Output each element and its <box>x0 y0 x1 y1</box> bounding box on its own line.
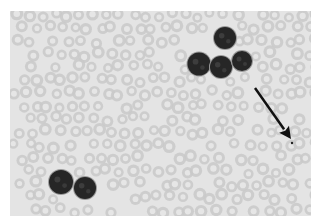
rbc <box>126 86 137 97</box>
rbc <box>178 90 189 101</box>
rbc <box>140 12 151 23</box>
rbc <box>270 58 283 71</box>
rbc <box>291 47 304 60</box>
rbc <box>186 22 198 34</box>
rbc <box>134 176 146 188</box>
rbc <box>225 126 236 137</box>
rbc <box>275 206 287 216</box>
rbc <box>168 34 180 46</box>
rbc <box>294 86 307 99</box>
rbc <box>258 141 268 151</box>
rbc <box>309 189 311 200</box>
rbc <box>251 180 262 191</box>
rbc <box>275 150 287 162</box>
rbc <box>131 149 144 162</box>
rbc <box>229 138 240 149</box>
rbc <box>245 139 257 151</box>
rbc <box>79 72 90 83</box>
rbc <box>195 205 208 216</box>
rbc <box>199 154 210 165</box>
rbc <box>293 113 305 125</box>
rbc <box>241 33 253 45</box>
rbc <box>159 71 171 83</box>
rbc <box>286 193 297 204</box>
rbc <box>182 205 194 216</box>
rbc <box>310 137 311 147</box>
rbc <box>147 206 158 216</box>
rbc <box>237 20 247 30</box>
rbc <box>300 153 311 164</box>
rbc <box>215 188 228 201</box>
lymphocyte <box>209 55 233 79</box>
rbc <box>226 181 237 192</box>
rbc <box>10 88 20 100</box>
rbc <box>99 163 111 175</box>
rbc <box>158 125 170 137</box>
rbc <box>157 207 169 216</box>
rbc <box>118 177 129 188</box>
rbc <box>161 22 172 33</box>
rbc <box>305 178 311 189</box>
rbc <box>172 101 185 114</box>
rbc <box>259 189 270 200</box>
rbc <box>89 86 100 97</box>
rbc <box>169 178 182 191</box>
rbc <box>217 11 228 19</box>
lymphocyte <box>73 176 97 200</box>
rbc <box>257 163 270 176</box>
rbc <box>39 123 52 136</box>
rbc <box>184 149 197 162</box>
rbc <box>142 34 154 46</box>
rbc <box>70 126 81 137</box>
rbc <box>148 72 159 83</box>
rbc <box>174 49 187 62</box>
rbc <box>52 89 62 99</box>
rbc <box>125 35 136 46</box>
rbc <box>38 11 49 22</box>
rbc <box>106 48 118 60</box>
rbc <box>40 205 52 216</box>
rbc <box>24 37 35 48</box>
rbc <box>304 204 311 215</box>
rbc <box>121 23 133 35</box>
rbc <box>248 205 260 216</box>
rbc <box>289 125 301 137</box>
rbc <box>20 86 33 99</box>
rbc <box>27 151 39 163</box>
rbc <box>57 22 68 33</box>
rbc <box>304 77 311 89</box>
rbc <box>114 167 124 177</box>
rbc <box>106 127 117 138</box>
rbc <box>25 61 37 73</box>
rbc <box>132 100 143 111</box>
rbc <box>161 98 173 110</box>
rbc <box>153 166 165 178</box>
rbc <box>213 152 225 164</box>
rbc <box>89 139 99 149</box>
rbc <box>88 112 99 123</box>
rbc <box>206 84 217 95</box>
rbc <box>47 35 58 46</box>
blood-smear-image <box>10 11 311 216</box>
rbc <box>192 13 202 23</box>
rbc <box>301 128 311 139</box>
rbc <box>117 114 127 124</box>
rbc <box>119 128 131 140</box>
rbc <box>151 86 163 98</box>
rbc <box>10 11 23 20</box>
rbc <box>190 164 203 177</box>
rbc <box>225 77 235 87</box>
rbc <box>34 85 46 97</box>
rbc <box>204 11 214 18</box>
rbc <box>222 90 233 101</box>
rbc <box>73 112 85 124</box>
rbc <box>130 11 141 20</box>
rbc <box>273 88 284 99</box>
rbc <box>132 127 144 139</box>
rbc <box>247 155 258 166</box>
rbc <box>291 74 302 85</box>
rbc <box>101 11 112 20</box>
rbc <box>93 101 103 111</box>
rbc <box>153 61 163 71</box>
rbc <box>243 169 253 179</box>
